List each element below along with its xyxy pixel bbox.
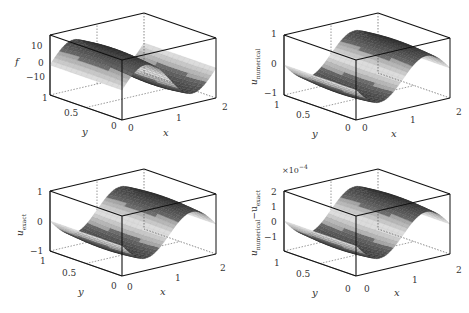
z-tick-1: 1: [271, 30, 277, 39]
z-tick-minus1: −1: [264, 233, 277, 242]
y-axis-label: y: [82, 126, 88, 137]
x-axis-label: x: [163, 127, 169, 138]
x-tick-0: 0: [128, 124, 134, 133]
z-tick-minus1: −1: [264, 89, 277, 98]
y-tick-1: 1: [274, 101, 280, 110]
y-tick-1: 1: [274, 259, 280, 268]
z-tick-10: 10: [31, 42, 42, 51]
z-axis-label: f: [15, 56, 19, 67]
z-tick-0: 0: [271, 60, 277, 69]
z-tick-0: 0: [271, 218, 277, 227]
x-tick-2: 2: [220, 264, 226, 273]
surface-plot-u-exact: [0, 156, 234, 312]
z-tick-minus1: −1: [30, 247, 43, 256]
x-tick-1: 1: [175, 274, 181, 283]
surface-plot-u-numerical: [234, 0, 468, 156]
x-axis-label: x: [160, 286, 166, 297]
x-tick-0: 0: [362, 124, 368, 133]
z-tick-minus10: −10: [26, 73, 45, 82]
x-tick-1: 1: [176, 114, 182, 123]
y-tick-0: 0: [111, 122, 117, 131]
y-tick-0: 0: [345, 124, 351, 133]
z-axis-label: unumerical: [249, 49, 261, 85]
z-tick-1: 1: [271, 203, 277, 212]
x-tick-2: 2: [456, 266, 462, 275]
y-tick-0: 0: [111, 282, 117, 291]
plot-error: ×10−4 2 1 0 −1 unumerical−uexact 1 0.5 0…: [234, 156, 468, 312]
plot-u-numerical: 1 0 −1 unumerical 1 0.5 0 y 0 1 2 x: [234, 0, 468, 156]
x-tick-0: 0: [127, 283, 133, 292]
plot-u-exact: 1 0 −1 uexact 1 0.5 0 y 0 1 2 x: [0, 156, 234, 312]
z-tick-0: 0: [37, 218, 43, 227]
y-tick-1: 1: [42, 94, 48, 103]
x-tick-1: 1: [410, 116, 416, 125]
plot-f: 10 0 −10 f 1 0.5 0 y 0 1 2 x: [0, 0, 234, 156]
z-axis-label: uexact: [15, 214, 27, 236]
x-tick-0: 0: [364, 285, 370, 294]
y-axis-label: y: [312, 128, 318, 139]
y-tick-0.5: 0.5: [62, 269, 76, 278]
y-tick-0: 0: [345, 285, 351, 294]
y-tick-0.5: 0.5: [64, 109, 78, 118]
x-axis-label: x: [391, 128, 397, 139]
y-tick-0.5: 0.5: [296, 111, 310, 120]
z-tick-1: 1: [37, 188, 43, 197]
z-tick-0: 0: [38, 59, 44, 68]
y-axis-label: y: [312, 287, 318, 298]
z-axis-label: unumerical−uexact: [249, 190, 261, 256]
x-tick-1: 1: [412, 276, 418, 285]
x-tick-2: 2: [456, 108, 462, 117]
z-multiplier: ×10−4: [282, 163, 308, 175]
x-axis-label: x: [394, 287, 400, 298]
y-tick-1: 1: [40, 257, 46, 266]
x-tick-2: 2: [222, 103, 228, 112]
y-axis-label: y: [78, 286, 84, 297]
z-tick-2: 2: [271, 188, 277, 197]
y-tick-0.5: 0.5: [296, 270, 310, 279]
